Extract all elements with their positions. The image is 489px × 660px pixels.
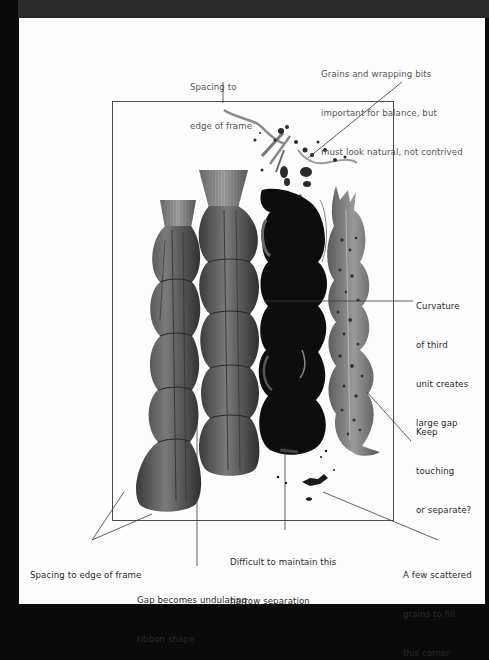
line-keep-touching xyxy=(367,392,411,441)
bundle-3 xyxy=(259,189,327,455)
annotation-keep-touching: Keep touching or separate? xyxy=(416,400,471,530)
bundle-2 xyxy=(199,170,260,476)
annotation-difficult: Difficult to maintain this narrow separa… xyxy=(230,530,336,621)
annotation-spacing-bottom: Spacing to edge of frame xyxy=(30,543,141,595)
annotation-spacing-top: Spacing to edge of frame xyxy=(190,55,252,146)
annotation-grains: Grains and wrapping bits important for b… xyxy=(321,42,463,172)
bundle-1 xyxy=(136,200,201,512)
bundle-4 xyxy=(327,186,380,456)
annotation-scattered: A few scattered grains to fill this corn… xyxy=(403,543,472,660)
